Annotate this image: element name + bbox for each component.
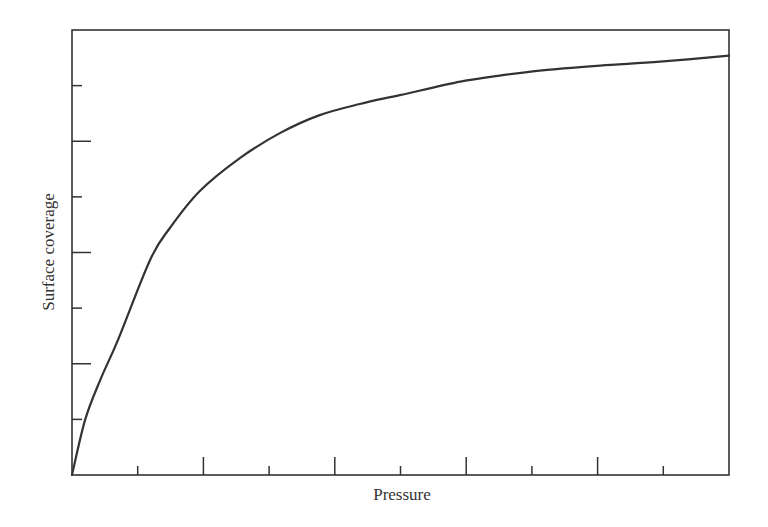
y-axis-ticks [72,86,91,420]
y-axis-label: Surface coverage [39,193,58,311]
adsorption-curve [72,56,729,475]
plot-frame [72,30,729,475]
chart: Pressure Surface coverage [0,0,768,527]
x-axis-label: Pressure [373,485,431,504]
x-axis-ticks [138,457,664,475]
